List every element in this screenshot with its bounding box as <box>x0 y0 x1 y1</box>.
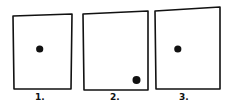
panel-1-frame <box>13 14 72 89</box>
panel-2-label: 2. <box>110 92 120 102</box>
panel-2-dot <box>133 76 141 84</box>
panel-3-label: 3. <box>179 92 189 102</box>
panel-1-label: 1. <box>35 92 45 102</box>
panel-3: 3. <box>155 7 220 102</box>
panel-1-dot <box>36 45 43 52</box>
panel-3-dot <box>174 45 181 52</box>
panel-1: 1. <box>13 14 72 102</box>
panel-2: 2. <box>83 11 148 102</box>
panel-3-frame <box>155 7 220 89</box>
diagram-canvas: 1. 2. 3. <box>0 0 231 106</box>
